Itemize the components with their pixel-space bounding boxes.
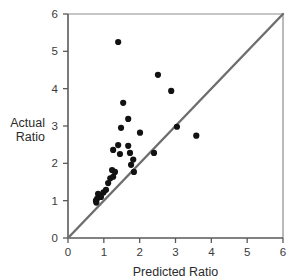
data-point	[155, 72, 161, 78]
x-tick-label-1: 1	[101, 246, 107, 258]
y-tick-label-4: 4	[52, 83, 59, 95]
data-point	[131, 169, 137, 175]
x-tick-label-6: 6	[280, 246, 286, 258]
data-point	[93, 199, 99, 205]
data-point	[128, 162, 134, 168]
data-point	[118, 125, 124, 131]
x-tick-label-3: 3	[172, 246, 178, 258]
data-point	[151, 150, 157, 156]
data-point	[117, 151, 123, 157]
data-point	[105, 180, 111, 186]
chart-canvas: 0123456 0123456 Predicted Ratio Actual R…	[0, 0, 296, 279]
x-tick-label-0: 0	[65, 246, 71, 258]
data-point	[193, 133, 199, 139]
data-point	[120, 100, 126, 106]
data-point	[115, 39, 121, 45]
scatter-chart: 0123456 0123456 Predicted Ratio Actual R…	[0, 0, 296, 279]
data-point	[168, 88, 174, 94]
y-tick-label-2: 2	[52, 157, 58, 169]
y-tick-label-0: 0	[52, 232, 58, 244]
data-point	[125, 143, 131, 149]
x-axis-title: Predicted Ratio	[133, 265, 219, 279]
y-tick-label-6: 6	[52, 8, 58, 20]
y-tick-label-3: 3	[52, 120, 58, 132]
y-axis-title-line-2: Ratio	[16, 130, 45, 144]
y-axis-tick-labels: 0123456	[52, 8, 59, 244]
y-tick-label-5: 5	[52, 45, 58, 57]
y-tick-label-1: 1	[52, 195, 58, 207]
y-axis-title-line-1: Actual	[10, 116, 45, 130]
data-point	[125, 116, 131, 122]
data-point	[137, 130, 143, 136]
data-point	[127, 150, 133, 156]
data-point	[115, 142, 121, 148]
x-axis-tick-labels: 0123456	[65, 246, 286, 258]
x-tick-label-2: 2	[136, 246, 142, 258]
x-tick-label-5: 5	[244, 246, 250, 258]
data-point	[110, 147, 116, 153]
data-point	[174, 124, 180, 130]
x-tick-label-4: 4	[208, 246, 215, 258]
data-point-group	[93, 39, 200, 206]
